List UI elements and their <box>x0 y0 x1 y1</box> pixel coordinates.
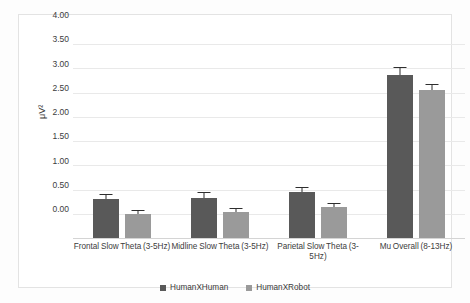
bar-group <box>269 44 367 238</box>
error-bar <box>302 188 303 192</box>
x-axis-category-label: Parietal Slow Theta (3-5Hz) <box>269 242 367 263</box>
error-bar-cap <box>100 194 113 195</box>
bar-group-bars <box>269 44 367 238</box>
bar[interactable] <box>419 90 445 238</box>
y-axis-tick-label: 3.50 <box>52 35 69 44</box>
bar-slot <box>93 44 119 238</box>
y-axis-tick-labels: 4.003.503.002.502.001.501.000.500.00 <box>27 15 69 209</box>
legend-swatch-icon <box>246 285 252 291</box>
y-axis-tick-label: 1.50 <box>52 132 69 141</box>
error-bar <box>106 195 107 199</box>
error-bar-cap <box>296 187 309 188</box>
error-bar <box>138 211 139 214</box>
y-axis-tick-label: 1.00 <box>52 157 69 166</box>
x-axis-category-labels: Frontal Slow Theta (3-5Hz)Midline Slow T… <box>73 242 465 276</box>
error-bar <box>204 193 205 197</box>
bar[interactable] <box>223 212 249 238</box>
y-axis-tick-label: 2.00 <box>52 108 69 117</box>
bar-group-bars <box>171 44 269 238</box>
error-bar <box>236 209 237 212</box>
bar-group-bars <box>73 44 171 238</box>
error-bar <box>334 204 335 207</box>
error-bar-cap <box>394 67 407 68</box>
legend-item[interactable]: HumanXHuman <box>160 284 228 292</box>
x-axis-category-label: Frontal Slow Theta (3-5Hz) <box>73 242 171 252</box>
bar-slot <box>289 44 315 238</box>
bar[interactable] <box>387 75 413 238</box>
y-axis-tick-label: 4.00 <box>52 11 69 20</box>
bar-slot <box>125 44 151 238</box>
y-axis-tick-label: 0.00 <box>52 205 69 214</box>
error-bar-cap <box>328 203 341 204</box>
bar[interactable] <box>321 207 347 238</box>
bar[interactable] <box>125 214 151 238</box>
legend-label: HumanXRobot <box>256 284 310 292</box>
bar-slot <box>223 44 249 238</box>
error-bar <box>400 68 401 74</box>
error-bar-cap <box>426 84 439 85</box>
y-axis-tick-label: 3.00 <box>52 60 69 69</box>
chart-frame: 4.003.503.002.502.001.501.000.500.00 μV²… <box>18 14 452 288</box>
bar-slot <box>191 44 217 238</box>
y-axis-title: μV² <box>38 105 47 119</box>
bar[interactable] <box>289 192 315 238</box>
bar-slot <box>387 44 413 238</box>
bar-group <box>171 44 269 238</box>
bar-group <box>73 44 171 238</box>
error-bar-cap <box>132 210 145 211</box>
bar-slot <box>419 44 445 238</box>
x-axis-category-label: Midline Slow Theta (3-5Hz) <box>171 242 269 252</box>
y-axis-tick-label: 2.50 <box>52 84 69 93</box>
bar-group <box>367 44 465 238</box>
error-bar-cap <box>230 208 243 209</box>
chart-legend: HumanXHumanHumanXRobot <box>19 284 451 292</box>
error-bar <box>432 85 433 90</box>
legend-item[interactable]: HumanXRobot <box>246 284 310 292</box>
legend-swatch-icon <box>160 285 166 291</box>
figure-canvas: 4.003.503.002.502.001.501.000.500.00 μV²… <box>0 0 470 303</box>
bar-slot <box>321 44 347 238</box>
bar[interactable] <box>93 199 119 238</box>
bar-group-bars <box>367 44 465 238</box>
gridline <box>73 238 465 239</box>
x-axis-category-label: Mu Overall (8-13Hz) <box>367 242 465 252</box>
error-bar-cap <box>198 192 211 193</box>
legend-label: HumanXHuman <box>170 284 228 292</box>
plot-area <box>73 44 465 238</box>
y-axis-tick-label: 0.50 <box>52 181 69 190</box>
bar[interactable] <box>191 198 217 238</box>
